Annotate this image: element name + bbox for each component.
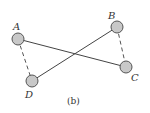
label-a: A (12, 21, 20, 32)
edge-a-d-dashed (18, 39, 32, 81)
node-a (12, 33, 24, 45)
label-c: C (131, 72, 139, 83)
node-b (111, 21, 123, 33)
node-d (26, 75, 38, 87)
label-b: B (107, 10, 115, 21)
graph-diagram: A B C D (b) (0, 0, 150, 113)
caption: (b) (67, 96, 80, 106)
edge-a-c (18, 39, 126, 67)
edge-d-b (32, 27, 117, 81)
label-d: D (24, 89, 33, 100)
